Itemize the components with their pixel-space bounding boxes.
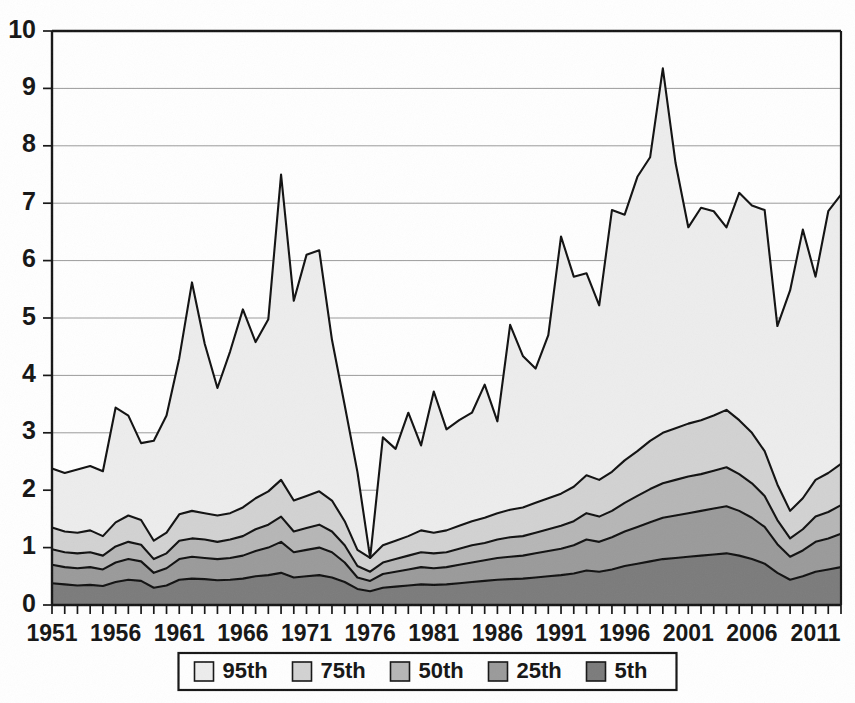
stacked-area-chart: 012345678910 195119561961196619711976198…: [0, 0, 855, 703]
chart-figure: 012345678910 195119561961196619711976198…: [0, 0, 855, 703]
paper-grain-overlay: [0, 0, 855, 703]
